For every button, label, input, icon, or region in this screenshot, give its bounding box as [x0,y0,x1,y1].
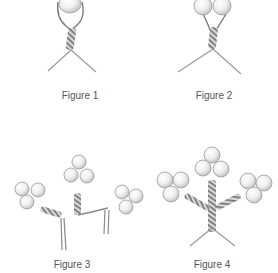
figure-4-drawing [157,147,272,246]
pearl-icon [59,0,81,13]
pearl-icon [20,195,34,209]
figure-1-caption: Figure 1 [62,90,99,101]
illustration-canvas [0,0,278,273]
pearl-icon [213,161,229,177]
figure-2-caption: Figure 2 [196,90,233,101]
pearl-icon [64,168,78,182]
pearl-icon [163,186,179,202]
figure-1-drawing [48,0,96,72]
pearl-icon [173,172,189,188]
figure-3-caption: Figure 3 [54,259,91,270]
pearl-icon [129,189,143,203]
pearl-icon [240,173,256,189]
figure-2-drawing [178,0,241,74]
pearl-icon [119,200,133,214]
figure-3-drawing [15,155,143,250]
pearl-icon [72,155,86,169]
pearl-icon [31,183,45,197]
pearl-icon [115,185,129,199]
pearl-icon [194,0,212,15]
pearl-icon [80,169,94,183]
pearl-icon [213,0,231,15]
pearl-icon [157,172,173,188]
figure-4-caption: Figure 4 [194,259,231,270]
pearl-icon [195,160,211,176]
pearl-icon [246,187,262,203]
pearl-icon [15,182,29,196]
